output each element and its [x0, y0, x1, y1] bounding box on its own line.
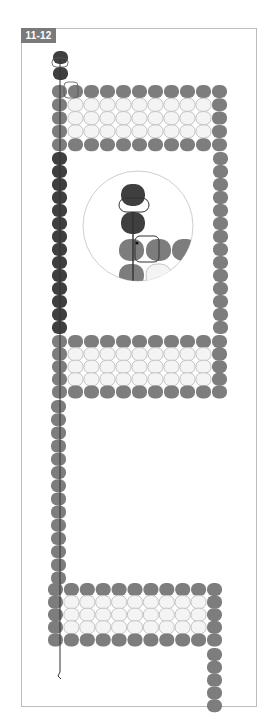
bead-medium	[100, 85, 115, 98]
bead-medium	[213, 295, 228, 308]
bead-light	[159, 608, 174, 621]
right-column-top	[213, 152, 228, 334]
bead-medium	[132, 138, 147, 151]
bead-medium	[119, 239, 144, 261]
bead-light	[128, 596, 143, 609]
bead-light	[100, 112, 115, 125]
bead-medium	[68, 385, 83, 398]
bead-light	[84, 98, 99, 111]
bead-medium	[68, 138, 83, 151]
bead-medium	[51, 532, 66, 545]
bead-light	[80, 596, 95, 609]
bead-medium	[132, 85, 147, 98]
bead-light	[148, 112, 163, 125]
bead-medium	[116, 138, 131, 151]
bead-medium	[212, 373, 227, 386]
bead-medium	[48, 583, 63, 596]
bead-light	[116, 98, 131, 111]
bead-medium	[212, 125, 227, 138]
bead-medium	[48, 596, 63, 609]
bead-light	[100, 360, 115, 373]
bead-light	[84, 373, 99, 386]
bead-light	[112, 596, 127, 609]
bead-light	[148, 348, 163, 361]
bead-light	[64, 608, 79, 621]
needle-point-dot	[135, 241, 138, 244]
bead-light	[112, 621, 127, 634]
bead-light	[100, 98, 115, 111]
bead-medium	[51, 440, 66, 453]
bead-light	[100, 373, 115, 386]
bead-light	[172, 264, 197, 286]
bead-light	[80, 621, 95, 634]
bead-medium	[148, 85, 163, 98]
bead-light	[96, 596, 111, 609]
bottom-right-tail	[207, 648, 222, 712]
bead-light	[196, 98, 211, 111]
bead-light	[164, 98, 179, 111]
bead-medium	[51, 413, 66, 426]
bead-light	[68, 360, 83, 373]
bead-medium	[148, 385, 163, 398]
bead-medium	[212, 360, 227, 373]
bead-medium	[48, 633, 63, 646]
bead-light	[191, 621, 206, 634]
bead-medium	[213, 282, 228, 295]
bead-light	[116, 373, 131, 386]
bead-medium	[207, 583, 222, 596]
bead-light	[132, 112, 147, 125]
bead-light	[143, 596, 158, 609]
bead-medium	[132, 335, 147, 348]
bead-light	[68, 373, 83, 386]
bead-medium	[212, 335, 227, 348]
bead-medium	[100, 335, 115, 348]
bead-light	[116, 360, 131, 373]
bead-light	[132, 125, 147, 138]
bead-medium	[80, 583, 95, 596]
bead-light	[68, 98, 83, 111]
bead-medium	[212, 98, 227, 111]
bead-light	[180, 112, 195, 125]
bead-medium	[148, 138, 163, 151]
bead-medium	[213, 243, 228, 256]
bead-medium	[212, 138, 227, 151]
bead-light	[100, 125, 115, 138]
bead-light	[164, 348, 179, 361]
bead-medium	[213, 191, 228, 204]
bead-medium	[172, 239, 197, 261]
bead-medium	[180, 138, 195, 151]
bead-light	[84, 348, 99, 361]
bottom-rectangle	[48, 583, 222, 646]
bead-medium	[212, 385, 227, 398]
bead-light	[84, 360, 99, 373]
bead-medium	[212, 85, 227, 98]
bead-medium	[51, 492, 66, 505]
bead-medium	[207, 596, 222, 609]
bead-medium	[132, 385, 147, 398]
bead-light	[80, 608, 95, 621]
bead-light	[148, 373, 163, 386]
bead-light	[196, 373, 211, 386]
bead-medium	[196, 335, 211, 348]
bead-medium	[159, 633, 174, 646]
bead-medium	[100, 138, 115, 151]
bead-light	[68, 125, 83, 138]
bead-medium	[51, 506, 66, 519]
bead-light	[143, 621, 158, 634]
bead-medium	[148, 335, 163, 348]
bead-medium	[51, 466, 66, 479]
bead-medium	[100, 385, 115, 398]
bead-medium	[51, 519, 66, 532]
bead-medium	[96, 633, 111, 646]
middle-rectangle	[52, 335, 227, 398]
bead-medium	[96, 583, 111, 596]
bead-light	[180, 373, 195, 386]
bead-medium	[207, 633, 222, 646]
bead-light	[112, 608, 127, 621]
thread-end	[58, 672, 61, 679]
bead-medium	[196, 385, 211, 398]
bead-medium	[191, 633, 206, 646]
bead-light	[68, 112, 83, 125]
bead-light	[143, 608, 158, 621]
bead-medium	[68, 85, 83, 98]
